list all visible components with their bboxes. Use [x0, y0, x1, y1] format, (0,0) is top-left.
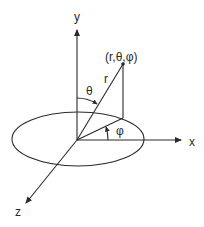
- y-axis-label: y: [74, 10, 80, 24]
- point-label: (r,θ,φ): [105, 50, 137, 64]
- x-axis-label: x: [189, 135, 195, 149]
- z-axis: [26, 140, 77, 203]
- spherical-coordinates-diagram: y x z (r,θ,φ) r θ φ: [0, 0, 204, 227]
- z-axis-label: z: [15, 205, 21, 219]
- phi-label: φ: [116, 124, 124, 138]
- radius-label: r: [104, 72, 108, 86]
- theta-arc: [77, 98, 97, 104]
- phi-arc: [106, 127, 108, 140]
- theta-label: θ: [86, 84, 93, 98]
